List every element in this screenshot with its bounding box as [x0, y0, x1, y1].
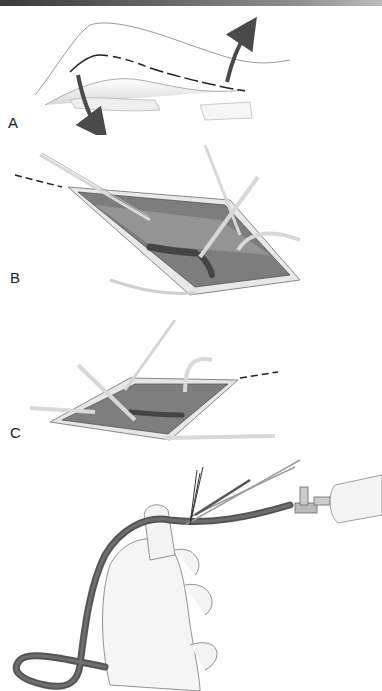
- panel-label-a: A: [8, 114, 18, 131]
- vein-harvest-hand-illustration: [0, 445, 382, 691]
- vein-dissection-illustration: [0, 300, 382, 445]
- panel-label-b: B: [10, 269, 20, 286]
- panel-label-c: C: [10, 424, 21, 441]
- panel-a: A: [0, 0, 382, 135]
- panel-c: C: [0, 300, 382, 445]
- panel-b: B: [0, 135, 382, 300]
- panel-d: [0, 445, 382, 691]
- leg-incision-illustration: [0, 0, 382, 135]
- vein-exposure-illustration: [0, 135, 382, 300]
